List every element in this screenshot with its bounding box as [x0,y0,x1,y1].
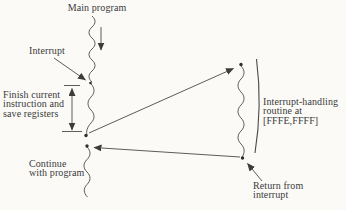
interrupt-label: Interrupt [29,46,65,55]
routine-entry-dot [239,63,242,66]
return-to-main-arrow [94,148,240,158]
interrupt-diagram: Main program Interrupt Finish current in… [0,0,346,210]
continue-program-label: Continue with program [29,159,84,178]
interrupt-routine-label: Interrupt-handling routine at [FFFE,FFFF… [263,97,338,125]
routine-group-paren [255,59,259,153]
main-program-flow-line-top [89,16,95,82]
main-program-label: Main program [59,3,135,12]
interrupt-routine-flow-line [238,66,244,157]
main-program-flow-line-bottom [84,147,90,197]
jump-point-dot [84,134,87,137]
routine-exit-dot [241,156,244,159]
return-label-arrow [248,164,263,182]
call-interrupt-routine-arrow [89,69,234,134]
resume-point-dot [85,144,88,147]
main-program-flow-line-middle [87,84,94,135]
interrupt-point-dot [89,82,92,85]
interrupt-label-arrow [54,58,86,80]
return-from-interrupt-label: Return from interrupt [253,181,303,200]
finish-instruction-label: Finish current instruction and save regi… [3,90,64,118]
